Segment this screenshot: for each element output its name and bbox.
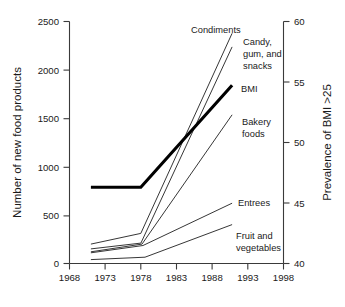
series-label-candy-gum-and-snacks-line1: Candy, [243, 37, 272, 47]
y-tick-label-2500: 2500 [38, 16, 59, 27]
x-tick-label-1988: 1988 [201, 272, 222, 283]
series-label-candy-gum-and-snacks-line2: gum, and [243, 49, 282, 59]
series-line-entrees [91, 203, 232, 253]
x-tick-label-1978: 1978 [130, 272, 151, 283]
series-lines-group [91, 33, 232, 259]
y2-tick-label-55: 55 [294, 77, 305, 88]
series-label-fruit-and-vegetables-line1: Fruit and [236, 231, 273, 241]
y2-tick-label-40: 40 [294, 258, 305, 269]
x-tick-label-1973: 1973 [94, 272, 115, 283]
x-tick-label-1968: 1968 [59, 272, 80, 283]
y-tick-label-1500: 1500 [38, 113, 59, 124]
y2-tick-label-50: 50 [294, 137, 305, 148]
series-line-bakery-foods [91, 115, 232, 252]
series-label-candy-gum-and-snacks-line3: snacks [243, 61, 272, 71]
y-tick-label-1000: 1000 [38, 162, 59, 173]
line-chart: 2500 2000 1500 1000 500 0 60 55 50 45 40 [0, 0, 345, 307]
y2-tick-label-60: 60 [294, 16, 305, 27]
y2-tick-label-45: 45 [294, 198, 305, 209]
y-axis-left-title: Number of new food products [11, 67, 23, 218]
series-line-condiments [91, 33, 232, 244]
series-label-bmi: BMI [241, 84, 258, 94]
series-label-fruit-and-vegetables-line2: vegetables [236, 243, 281, 253]
x-axis-ticks: 1968 1973 1978 1983 1988 1993 1998 [59, 264, 294, 284]
y-tick-label-500: 500 [43, 210, 59, 221]
y-axis-right-title: Prevalence of BMI >25 [321, 84, 333, 201]
series-line-bmi [91, 85, 232, 187]
y-axis-right-ticks: 60 55 50 45 40 [284, 16, 305, 269]
series-line-candy-gum-and-snacks [91, 47, 232, 249]
chart-container: 2500 2000 1500 1000 500 0 60 55 50 45 40 [0, 0, 345, 307]
series-label-condiments: Condiments [191, 25, 241, 35]
y-tick-label-2000: 2000 [38, 65, 59, 76]
series-label-bakery-foods-line1: Bakery [242, 117, 271, 127]
x-tick-label-1983: 1983 [166, 272, 187, 283]
y-axis-left-ticks: 2500 2000 1500 1000 500 0 [38, 16, 70, 269]
series-line-fruit-and-vegetables [91, 225, 232, 260]
x-tick-label-1993: 1993 [237, 272, 258, 283]
series-label-bakery-foods-line2: foods [242, 129, 265, 139]
x-tick-label-1998: 1998 [273, 272, 294, 283]
series-label-entrees: Entrees [238, 198, 270, 208]
series-labels-group: Condiments Candy, gum, and snacks BMI Ba… [191, 25, 282, 253]
y-tick-label-0: 0 [54, 258, 59, 269]
